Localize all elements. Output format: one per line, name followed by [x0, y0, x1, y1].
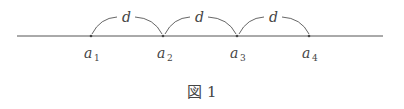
- number-line-diagram: d d d a 1 a 2 a 3 a 4 図 1: [0, 0, 404, 109]
- point-a4: a 4: [302, 35, 318, 63]
- interval-label: d: [195, 9, 204, 25]
- point-label: a: [302, 45, 310, 61]
- point-a2: a 2: [157, 35, 173, 63]
- figure-caption: 図 1: [187, 83, 216, 101]
- arc-3: d: [239, 9, 309, 34]
- arc-2: d: [165, 9, 236, 34]
- point-a3: a 3: [230, 35, 246, 63]
- point-a1: a 1: [84, 35, 100, 63]
- point-subscript: 4: [312, 53, 318, 63]
- interval-label: d: [269, 9, 278, 25]
- point-label: a: [157, 45, 165, 61]
- point-subscript: 2: [167, 53, 173, 63]
- interval-label: d: [122, 9, 131, 25]
- point-label: a: [230, 45, 238, 61]
- arc-1: d: [92, 9, 162, 34]
- point-subscript: 1: [94, 53, 100, 63]
- point-subscript: 3: [240, 53, 246, 63]
- point-label: a: [84, 45, 92, 61]
